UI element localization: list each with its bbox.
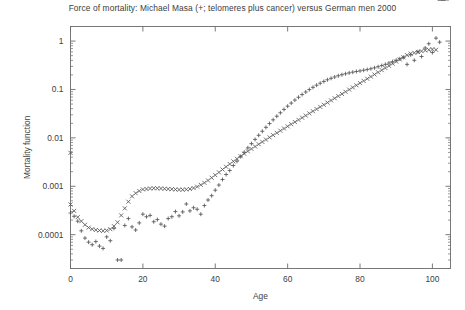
svg-text:60: 60 [283, 274, 293, 284]
data-point [329, 76, 333, 80]
data-point [427, 42, 431, 46]
data-point [271, 118, 275, 122]
data-point [289, 122, 293, 126]
data-point [155, 218, 159, 222]
svg-text:0: 0 [68, 274, 73, 284]
data-point [195, 185, 199, 189]
data-point [409, 53, 413, 57]
data-point [394, 58, 398, 62]
data-point [380, 64, 384, 68]
data-point [315, 107, 319, 111]
data-point [300, 93, 304, 97]
data-point [325, 101, 329, 105]
data-point [434, 36, 438, 40]
data-point [286, 124, 290, 128]
data-point [72, 209, 76, 213]
svg-text:20: 20 [138, 274, 148, 284]
svg-text:0.0001: 0.0001 [38, 230, 64, 240]
data-point [412, 58, 416, 62]
data-point [427, 48, 431, 52]
data-point [438, 40, 442, 44]
data-point [184, 202, 188, 206]
data-point [365, 77, 369, 81]
data-point [202, 204, 206, 208]
data-point [293, 98, 297, 102]
data-point [184, 187, 188, 191]
data-point [163, 224, 167, 228]
data-point [391, 60, 395, 64]
data-point [365, 68, 369, 72]
data-point [358, 69, 362, 73]
data-point [242, 150, 246, 154]
data-point [253, 145, 257, 149]
data-point [347, 88, 351, 92]
chart-container: Force of mortality: Michael Masa (+; tel… [0, 0, 465, 310]
data-point [228, 168, 232, 172]
data-point [297, 95, 301, 99]
data-point [278, 111, 282, 115]
data-point [166, 217, 170, 221]
data-point [297, 118, 301, 122]
data-point [347, 71, 351, 75]
data-point [126, 200, 130, 204]
data-point [231, 164, 235, 168]
data-point [293, 120, 297, 124]
data-point [217, 170, 221, 174]
data-point [304, 90, 308, 94]
svg-text:0.01: 0.01 [47, 133, 64, 143]
data-point [383, 66, 387, 70]
data-point [123, 206, 127, 210]
data-point [369, 75, 373, 79]
data-point [199, 212, 203, 216]
data-point [188, 209, 192, 213]
data-point [224, 165, 228, 169]
data-point [101, 246, 105, 250]
data-point [87, 240, 91, 244]
data-point [188, 187, 192, 191]
data-point [94, 240, 98, 244]
data-point [289, 101, 293, 105]
data-point [116, 220, 120, 224]
data-point [300, 116, 304, 120]
data-point [159, 222, 163, 226]
svg-text:1: 1 [59, 36, 64, 46]
data-point [181, 210, 185, 214]
data-series-group [69, 0, 449, 262]
plot-area: 0.00010.0010.010.11 020406080100 [0, 0, 465, 310]
data-point [87, 226, 91, 230]
data-point [177, 188, 181, 192]
data-point [79, 219, 83, 223]
series-0 [69, 0, 446, 233]
data-point [195, 207, 199, 211]
data-point [257, 142, 261, 146]
data-point [119, 258, 123, 262]
svg-text:0.1: 0.1 [52, 84, 64, 94]
data-point [145, 215, 149, 219]
data-point [344, 90, 348, 94]
data-point [152, 220, 156, 224]
data-point [336, 94, 340, 98]
data-point [206, 198, 210, 202]
data-point [325, 78, 329, 82]
data-point [369, 67, 373, 71]
data-point [231, 159, 235, 163]
data-point [275, 114, 279, 118]
data-point [376, 65, 380, 69]
data-point [318, 105, 322, 109]
data-point [340, 92, 344, 96]
data-point [373, 72, 377, 76]
data-point [264, 125, 268, 129]
svg-text:80: 80 [355, 274, 365, 284]
data-point [362, 68, 366, 72]
data-point [354, 70, 358, 74]
data-point [420, 54, 424, 58]
data-point [268, 122, 272, 126]
data-point [333, 75, 337, 79]
svg-text:100: 100 [425, 274, 439, 284]
data-point [72, 214, 76, 218]
data-point [210, 194, 214, 198]
data-point [257, 133, 261, 137]
data-point [344, 72, 348, 76]
data-point [137, 221, 141, 225]
data-point [405, 53, 409, 57]
